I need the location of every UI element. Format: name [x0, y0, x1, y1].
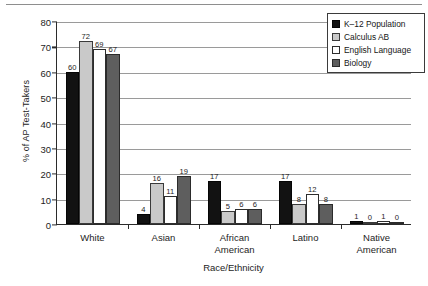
legend-item: Biology	[332, 56, 421, 69]
bar-value-label: 8	[297, 195, 301, 204]
legend-swatch-icon	[332, 33, 340, 41]
chart-legend: K–12 PopulationCalculus ABEnglish Langua…	[327, 13, 425, 73]
bar: 6	[248, 209, 262, 224]
y-tick-label: 50	[40, 93, 51, 104]
bar: 60	[66, 72, 80, 224]
y-tick-mark	[52, 174, 57, 175]
bar: 72	[79, 41, 93, 224]
x-axis-title: Race/Ethnicity	[56, 262, 411, 273]
bar-value-label: 6	[239, 200, 243, 209]
bar-chart-figure: % of AP Test-Takers 01020304050607080607…	[0, 0, 428, 286]
x-category-line: African	[199, 232, 270, 244]
bar: 1	[377, 221, 391, 224]
y-tick-mark	[52, 148, 57, 149]
bar-value-label: 6	[253, 200, 257, 209]
x-category-line: Latino	[270, 232, 341, 244]
x-tick-mark	[341, 224, 342, 229]
x-category-label: White	[57, 232, 128, 244]
y-tick-mark	[52, 72, 57, 73]
y-axis-title: % of AP Test-Takers	[21, 46, 31, 196]
bar: 17	[279, 181, 293, 224]
legend-item: Calculus AB	[332, 30, 421, 43]
bar-value-label: 8	[324, 195, 328, 204]
y-tick-mark	[52, 199, 57, 200]
bar-value-label: 12	[308, 185, 316, 194]
bar: 1	[350, 221, 364, 224]
bar: 11	[164, 196, 178, 224]
x-tick-mark	[128, 224, 129, 229]
bar: 0	[390, 222, 404, 224]
bar-value-label: 67	[109, 45, 117, 54]
x-category-line: American	[341, 244, 412, 256]
x-tick-mark	[270, 224, 271, 229]
y-tick-mark	[52, 21, 57, 22]
y-tick-label: 30	[40, 143, 51, 154]
x-category-line: Asian	[128, 232, 199, 244]
bar-group: 4161119	[137, 22, 191, 224]
bar-value-label: 69	[95, 40, 103, 49]
bar: 8	[292, 204, 306, 224]
x-category-label: NativeAmerican	[341, 232, 412, 255]
x-category-line: Native	[341, 232, 412, 244]
y-tick-mark	[52, 224, 57, 225]
y-tick-label: 10	[40, 194, 51, 205]
bar: 16	[150, 183, 164, 224]
bar: 67	[106, 54, 120, 224]
bar-value-label: 16	[153, 174, 161, 183]
y-tick-mark	[52, 47, 57, 48]
y-tick-mark	[52, 123, 57, 124]
x-category-line: American	[199, 244, 270, 256]
x-category-label: AfricanAmerican	[199, 232, 270, 255]
bar-value-label: 4	[141, 205, 145, 214]
bar-value-label: 17	[210, 172, 218, 181]
legend-swatch-icon	[332, 46, 340, 54]
legend-item: K–12 Population	[332, 17, 421, 30]
bar: 0	[363, 222, 377, 224]
x-tick-mark	[199, 224, 200, 229]
bar-value-label: 1	[354, 212, 358, 221]
bar-value-label: 1	[381, 212, 385, 221]
y-tick-label: 0	[46, 220, 51, 231]
bar-value-label: 17	[281, 172, 289, 181]
scan-top-rule	[6, 4, 422, 5]
bar-value-label: 19	[180, 167, 188, 176]
x-category-label: Latino	[270, 232, 341, 244]
y-tick-mark	[52, 98, 57, 99]
bar: 12	[306, 194, 320, 224]
legend-item: English Language	[332, 43, 421, 56]
bar-group: 17566	[208, 22, 262, 224]
y-tick-label: 80	[40, 17, 51, 28]
bar: 69	[93, 49, 107, 224]
legend-swatch-icon	[332, 59, 340, 67]
bar-value-label: 0	[368, 213, 372, 222]
x-category-label: Asian	[128, 232, 199, 244]
bar: 5	[221, 211, 235, 224]
y-tick-label: 20	[40, 169, 51, 180]
bar: 8	[319, 204, 333, 224]
bar-group: 60726967	[66, 22, 120, 224]
legend-label: English Language	[344, 45, 411, 55]
bar: 19	[177, 176, 191, 224]
y-tick-label: 70	[40, 42, 51, 53]
legend-swatch-icon	[332, 20, 340, 28]
bar: 17	[208, 181, 222, 224]
bar-group: 178128	[279, 22, 333, 224]
y-tick-label: 60	[40, 67, 51, 78]
bar: 6	[235, 209, 249, 224]
bar-value-label: 72	[82, 32, 90, 41]
legend-label: Calculus AB	[344, 32, 389, 42]
bar-value-label: 5	[226, 202, 230, 211]
bar-value-label: 0	[395, 213, 399, 222]
x-category-line: White	[57, 232, 128, 244]
bar-value-label: 60	[68, 63, 76, 72]
legend-label: K–12 Population	[344, 19, 405, 29]
bar: 4	[137, 214, 151, 224]
bar-value-label: 11	[166, 187, 174, 196]
legend-label: Biology	[344, 58, 371, 68]
y-tick-label: 40	[40, 118, 51, 129]
